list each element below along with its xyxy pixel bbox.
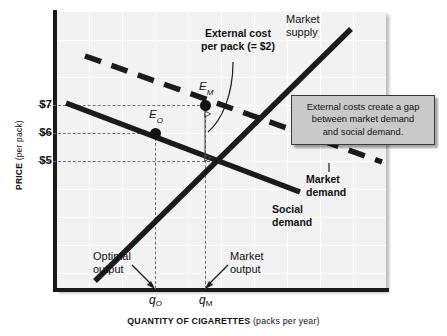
- x-tick-market-letter: q: [199, 293, 206, 307]
- x-axis-title-main: QUANTITY OF CIGARETTES: [127, 316, 250, 326]
- gridline-vertical: [287, 12, 288, 290]
- gridline-horizontal: [56, 245, 386, 246]
- x-tick-optimal-letter: q: [149, 293, 156, 307]
- optimal-equilibrium-label: EO: [149, 108, 163, 123]
- x-axis: [53, 288, 389, 292]
- gridline-vertical: [254, 12, 255, 290]
- gridline-vertical: [188, 12, 189, 290]
- market-output-label: Market output: [230, 250, 264, 277]
- external-cost-label: External cost per pack (= $2): [186, 27, 290, 53]
- optimal-equilibrium-letter: E: [149, 108, 157, 120]
- market-equilibrium-label: EM: [199, 80, 213, 95]
- y-axis-title-sub: (per pack): [14, 120, 24, 163]
- optimal-equilibrium-dot: [150, 128, 161, 139]
- market-equilibrium-subscript: M: [207, 88, 214, 97]
- x-tick-label-market: qM: [199, 293, 212, 307]
- optimal-equilibrium-subscript: O: [157, 116, 163, 125]
- x-tick-market-subscript: M: [206, 299, 213, 308]
- market-demand-label: Market demand: [306, 173, 346, 199]
- gridline-horizontal: [56, 217, 386, 218]
- market-equilibrium-letter: E: [199, 80, 207, 92]
- y-tick-label-7: $7: [39, 98, 52, 110]
- social-demand-label: Social demand: [272, 203, 312, 229]
- y-axis-title: PRICE (per pack): [14, 100, 24, 210]
- x-tick-label-optimal: qO: [149, 293, 162, 307]
- gridline-vertical: [221, 12, 222, 290]
- x-axis-title: QUANTITY OF CIGARETTES (packs per year): [0, 316, 447, 326]
- y-tick-label-5: $5: [39, 154, 52, 166]
- market-supply-label: Market supply: [286, 13, 320, 40]
- gridline-horizontal: [56, 77, 386, 78]
- y-tick-label-6: $6: [39, 126, 52, 138]
- gridline-vertical: [89, 12, 90, 290]
- y-axis: [53, 10, 57, 292]
- optimal-output-label: Optimal output: [93, 250, 131, 277]
- guide-line-quantity-market: [205, 105, 206, 289]
- x-axis-title-sub: (packs per year): [250, 316, 319, 326]
- y-axis-title-main: PRICE: [14, 163, 24, 190]
- guide-line-price-7: [38, 105, 210, 106]
- externality-diagram-figure: EM EO $7 $6 $5 PRICE (per pack) qO qM QU…: [0, 0, 447, 336]
- gridline-vertical: [122, 12, 123, 290]
- guide-line-quantity-optimal: [155, 133, 156, 289]
- gridline-vertical: [320, 12, 321, 290]
- guide-line-price-6: [38, 133, 160, 134]
- plot-area: [56, 12, 386, 290]
- gridline-vertical: [353, 12, 354, 290]
- external-costs-callout: External costs create a gap between mark…: [291, 95, 435, 145]
- guide-line-price-5: [38, 161, 210, 162]
- market-equilibrium-dot: [200, 100, 211, 111]
- x-tick-optimal-subscript: O: [156, 299, 162, 308]
